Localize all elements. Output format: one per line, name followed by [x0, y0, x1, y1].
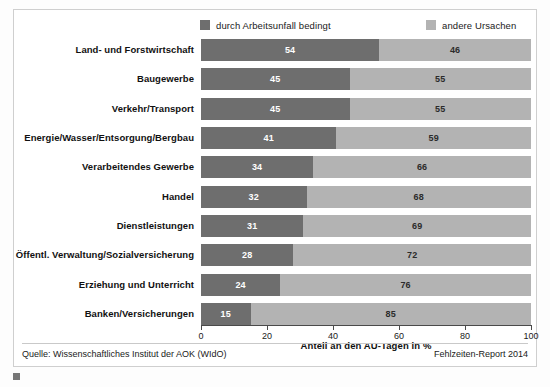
- category-label: Handel: [162, 186, 194, 208]
- report-text: Fehlzeiten-Report 2014: [434, 349, 528, 359]
- category-label: Land- und Forstwirtschaft: [76, 39, 194, 61]
- bar-value-label: 55: [435, 74, 445, 84]
- bar-segment-primary: 54: [201, 39, 379, 61]
- bar-segment-secondary: 76: [280, 274, 531, 296]
- footer-divider: [22, 343, 528, 344]
- plot-wrapper: Land- und Forstwirtschaft5446Baugewerbe4…: [14, 10, 536, 366]
- bar-row: Baugewerbe4555: [201, 68, 531, 90]
- bar-value-label: 32: [249, 192, 259, 202]
- chart-footer: Quelle: Wissenschaftliches Institut der …: [22, 346, 528, 362]
- bar-row: Dienstleistungen3169: [201, 215, 531, 237]
- bar-value-label: 45: [270, 104, 280, 114]
- bar-segment-primary: 45: [201, 68, 350, 90]
- plot-area: Land- und Forstwirtschaft5446Baugewerbe4…: [201, 39, 531, 325]
- bar-row: Banken/Versicherungen1585: [201, 303, 531, 325]
- category-label: Banken/Versicherungen: [85, 303, 194, 325]
- bar-segment-secondary: 59: [336, 127, 531, 149]
- bar-segment-secondary: 66: [313, 156, 531, 178]
- bar-value-label: 59: [428, 133, 438, 143]
- bar-segment-primary: 32: [201, 186, 307, 208]
- bar-segment-primary: 31: [201, 215, 303, 237]
- bar-segment-secondary: 85: [251, 303, 532, 325]
- bar-segment-primary: 41: [201, 127, 336, 149]
- bar-value-label: 34: [252, 162, 262, 172]
- bar-row: Öffentl. Verwaltung/Sozialversicherung28…: [201, 244, 531, 266]
- bar-row: Erziehung und Unterricht2476: [201, 274, 531, 296]
- category-label: Verkehr/Transport: [112, 98, 194, 120]
- bar-value-label: 55: [435, 104, 445, 114]
- x-axis-tick: [267, 325, 268, 330]
- category-label: Verarbeitendes Gewerbe: [82, 156, 194, 178]
- bar-value-label: 85: [386, 309, 396, 319]
- x-axis-tick: [531, 325, 532, 330]
- bar-segment-secondary: 72: [293, 244, 531, 266]
- bar-segment-primary: 45: [201, 98, 350, 120]
- figure-marker-icon: [13, 373, 20, 380]
- bar-segment-primary: 28: [201, 244, 293, 266]
- category-label: Energie/Wasser/Entsorgung/Bergbau: [24, 127, 194, 149]
- bar-value-label: 68: [414, 192, 424, 202]
- bar-row: Verkehr/Transport4555: [201, 98, 531, 120]
- bar-value-label: 31: [247, 221, 257, 231]
- bar-segment-secondary: 55: [350, 68, 532, 90]
- bar-segment-secondary: 46: [379, 39, 531, 61]
- bar-row: Verarbeitendes Gewerbe3466: [201, 156, 531, 178]
- bar-value-label: 69: [412, 221, 422, 231]
- chart-figure: durch Arbeitsunfall bedingt andere Ursac…: [13, 9, 537, 367]
- bar-value-label: 41: [263, 133, 273, 143]
- category-label: Baugewerbe: [137, 68, 194, 90]
- x-axis: 020406080100: [201, 325, 531, 326]
- bar-value-label: 66: [417, 162, 427, 172]
- bar-value-label: 24: [235, 280, 245, 290]
- bar-row: Energie/Wasser/Entsorgung/Bergbau4159: [201, 127, 531, 149]
- bar-segment-secondary: 69: [303, 215, 531, 237]
- x-axis-tick: [333, 325, 334, 330]
- bar-value-label: 76: [400, 280, 410, 290]
- bar-value-label: 15: [221, 309, 231, 319]
- bar-segment-primary: 34: [201, 156, 313, 178]
- x-axis-tick: [465, 325, 466, 330]
- bar-row: Land- und Forstwirtschaft5446: [201, 39, 531, 61]
- bar-value-label: 46: [450, 45, 460, 55]
- category-label: Erziehung und Unterricht: [79, 274, 194, 296]
- bar-row: Handel3268: [201, 186, 531, 208]
- x-axis-tick: [399, 325, 400, 330]
- bar-segment-primary: 15: [201, 303, 251, 325]
- bar-value-label: 45: [270, 74, 280, 84]
- bar-value-label: 28: [242, 250, 252, 260]
- bar-segment-secondary: 55: [350, 98, 532, 120]
- bar-segment-secondary: 68: [307, 186, 531, 208]
- bar-value-label: 72: [407, 250, 417, 260]
- source-text: Quelle: Wissenschaftliches Institut der …: [22, 349, 227, 359]
- bar-value-label: 54: [285, 45, 295, 55]
- bar-segment-primary: 24: [201, 274, 280, 296]
- x-axis-tick: [201, 325, 202, 330]
- category-label: Öffentl. Verwaltung/Sozialversicherung: [16, 244, 194, 266]
- category-label: Dienstleistungen: [117, 215, 194, 237]
- figure-caption: [13, 371, 537, 385]
